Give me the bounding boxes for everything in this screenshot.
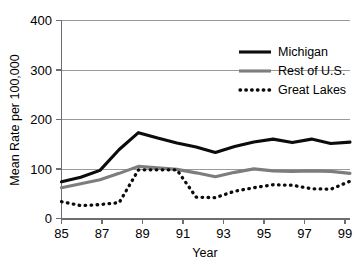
x-tick-label-89: 89 [135,226,149,241]
x-axis-title: Year [192,246,217,260]
series-line-rest-of-us [62,166,351,187]
y-axis-ticks [56,21,61,219]
y-tick-label-300: 300 [30,63,52,78]
y-tick-label-200: 200 [30,112,52,127]
x-tick-label-93: 93 [216,226,230,241]
y-tick-label-400: 400 [30,13,52,28]
x-tick-label-85: 85 [54,226,68,241]
y-axis-title: Mean Rate per 100,000 [8,54,22,185]
x-tick-label-87: 87 [95,226,109,241]
legend: Michigan Rest of U.S. Great Lakes [239,45,346,97]
y-axis-tick-labels: 400 300 200 100 0 [30,13,52,226]
x-tick-label-95: 95 [257,226,271,241]
legend-label-michigan: Michigan [278,45,328,59]
x-tick-label-99: 99 [338,226,352,241]
legend-label-great-lakes: Great Lakes [278,83,346,97]
y-tick-label-100: 100 [30,162,52,177]
x-axis-ticks [62,219,346,224]
x-axis-tick-labels: 85 87 89 91 93 95 97 99 [54,226,352,241]
line-chart: 400 300 200 100 0 85 87 89 91 93 95 97 9… [0,0,360,268]
legend-label-rest-of-us: Rest of U.S. [278,64,345,78]
y-tick-label-0: 0 [45,211,52,226]
x-tick-label-97: 97 [297,226,311,241]
x-tick-label-91: 91 [176,226,190,241]
chart-container: 400 300 200 100 0 85 87 89 91 93 95 97 9… [0,0,360,268]
